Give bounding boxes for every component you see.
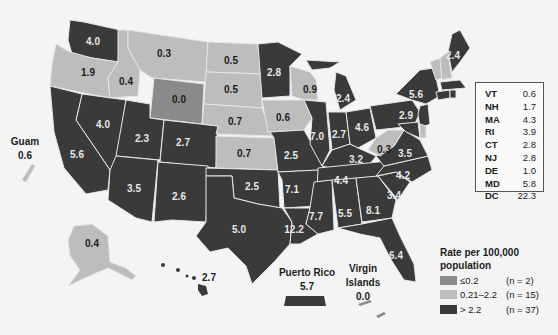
inset-state: MD (485, 178, 500, 191)
inset-row: DC22.3 (476, 190, 543, 203)
inset-value: 1.0 (523, 165, 536, 178)
legend-range: ≤0.2 (460, 275, 506, 286)
inset-value: 22.3 (518, 190, 537, 203)
label-nd: 0.5 (224, 55, 238, 66)
legend-row-high: > 2.2 (n = 37) (440, 303, 558, 316)
label-az: 3.5 (127, 183, 141, 194)
inset-value: 0.6 (523, 88, 536, 101)
label-hi: 2.7 (202, 272, 216, 283)
label-va: 3.5 (398, 148, 412, 159)
label-tx: 5.0 (232, 224, 246, 235)
label-wv: 0.3 (377, 144, 391, 155)
label-il: 7.0 (310, 131, 324, 142)
inset-state: MA (485, 114, 500, 127)
guam-shape (22, 164, 35, 182)
label-mn: 2.8 (267, 67, 281, 78)
legend-count: (n = 15) (506, 289, 546, 300)
label-ne: 0.7 (228, 116, 242, 127)
puerto-rico-shape (284, 296, 326, 306)
label-or: 1.9 (81, 67, 95, 78)
label-mo: 2.5 (284, 150, 298, 161)
inset-value: 5.8 (523, 178, 536, 191)
legend-row-low: ≤0.2 (n = 2) (440, 274, 558, 287)
state-hi (161, 263, 208, 296)
label-oh: 4.6 (355, 122, 369, 133)
label-ok: 2.5 (245, 181, 259, 192)
inset-state: NJ (485, 152, 497, 165)
inset-value: 2.8 (523, 152, 536, 165)
inset-value: 2.8 (523, 139, 536, 152)
label-pa: 2.9 (399, 110, 413, 121)
legend-row-mid: 0.21–2.2 (n = 15) (440, 289, 558, 302)
virgin-islands-value: 0.0 (338, 290, 388, 304)
label-ut: 2.3 (135, 133, 149, 144)
state-ct (436, 90, 450, 100)
small-states-table: VT0.6 NH1.7 MA4.3 RI3.9 CT2.8 NJ2.8 DE1.… (475, 82, 544, 192)
label-sc: 3.4 (387, 190, 401, 201)
inset-state: DE (485, 165, 498, 178)
inset-state: DC (485, 190, 499, 203)
guam-label: Guam 0.6 (5, 135, 45, 163)
puerto-rico-label: Puerto Rico 5.7 (272, 266, 342, 294)
legend-title-line1: Rate per 100,000 (440, 246, 558, 259)
legend: Rate per 100,000 population ≤0.2 (n = 2)… (440, 246, 558, 316)
legend-range: 0.21–2.2 (460, 289, 506, 300)
inset-value: 1.7 (523, 101, 536, 114)
label-tn: 4.4 (334, 175, 348, 186)
legend-count: (n = 2) (506, 275, 546, 286)
inset-value: 4.3 (523, 114, 536, 127)
label-in: 2.7 (332, 129, 346, 140)
label-wi: 0.9 (303, 84, 317, 95)
state-ri (450, 90, 456, 98)
label-ks: 0.7 (237, 148, 251, 159)
inset-state: RI (485, 126, 495, 139)
legend-swatch-mid (440, 290, 457, 299)
legend-swatch-low (440, 276, 457, 285)
legend-title-line2: population (440, 259, 558, 272)
label-me: 2.4 (446, 50, 460, 61)
state-ak (68, 224, 136, 286)
label-id: 0.4 (119, 76, 133, 87)
inset-row: VT0.6 (476, 88, 543, 101)
inset-row: NH1.7 (476, 101, 543, 114)
inset-row: MA4.3 (476, 114, 543, 127)
label-wa: 4.0 (86, 36, 100, 47)
legend-range: > 2.2 (460, 304, 506, 315)
label-co: 2.7 (176, 137, 190, 148)
inset-row: DE1.0 (476, 165, 543, 178)
virgin-islands-name-2: Islands (338, 276, 388, 290)
label-al: 5.5 (338, 208, 352, 219)
state-ma (440, 80, 466, 90)
inset-state: CT (485, 139, 498, 152)
label-ca: 5.6 (70, 149, 84, 160)
inset-state: NH (485, 101, 499, 114)
virgin-islands-label: Virgin Islands 0.0 (338, 262, 388, 304)
label-mt: 0.3 (157, 48, 171, 59)
label-ar: 7.1 (285, 184, 299, 195)
legend-swatch-high (440, 305, 457, 314)
guam-value: 0.6 (5, 149, 45, 163)
inset-row: NJ2.8 (476, 152, 543, 165)
puerto-rico-value: 5.7 (272, 280, 342, 294)
label-nm: 2.6 (172, 191, 186, 202)
label-ia: 0.6 (276, 112, 290, 123)
label-ga: 8.1 (366, 205, 380, 216)
label-ak: 0.4 (85, 238, 99, 249)
label-nv: 4.0 (96, 119, 110, 130)
label-la: 12.2 (284, 224, 304, 235)
inset-state: VT (485, 88, 497, 101)
inset-row: RI3.9 (476, 126, 543, 139)
label-sd: 0.5 (224, 84, 238, 95)
puerto-rico-name: Puerto Rico (272, 266, 342, 280)
guam-name: Guam (5, 135, 45, 149)
virgin-islands-name-1: Virgin (338, 262, 388, 276)
label-mi: 2.4 (336, 93, 350, 104)
inset-value: 3.9 (523, 126, 536, 139)
state-de (420, 124, 426, 138)
label-wy: 0.0 (172, 94, 186, 105)
inset-row: MD5.8 (476, 178, 543, 191)
label-ny: 5.6 (409, 89, 423, 100)
label-ky: 3.2 (349, 154, 363, 165)
label-nc: 4.2 (396, 170, 410, 181)
label-ms: 7.7 (309, 211, 323, 222)
